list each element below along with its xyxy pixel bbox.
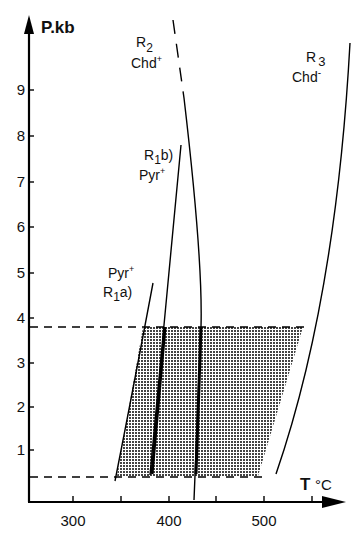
- y-tick-label: 4: [17, 309, 25, 326]
- phase-diagram: 1 2 3 4 5 6 7 8 9 300 400 500 P.kb T °C …: [0, 0, 359, 539]
- label-r2: R2 Chd+: [131, 34, 162, 71]
- svg-text:Chd+: Chd+: [131, 54, 162, 71]
- svg-text:R3: R3: [306, 49, 325, 69]
- svg-text:R1a): R1a): [103, 284, 132, 304]
- y-axis-title: P.kb: [41, 18, 75, 37]
- label-r3: R3 Chd-: [292, 49, 325, 85]
- y-tick-label: 2: [17, 398, 25, 415]
- x-axis-title: T: [300, 475, 311, 494]
- y-axis-arrow-icon: [24, 15, 34, 34]
- svg-text:R2: R2: [136, 34, 153, 55]
- curve-r2-dashed: [173, 20, 184, 98]
- y-tick-label: 6: [17, 218, 25, 235]
- x-tick-label: 400: [156, 512, 181, 529]
- svg-text:Pyr+: Pyr+: [139, 166, 165, 183]
- y-tick-label: 7: [17, 173, 25, 190]
- x-tick-label: 500: [251, 512, 276, 529]
- y-tick-label: 8: [17, 127, 25, 144]
- shaded-stability-field: [117, 327, 303, 476]
- y-tick-label: 5: [17, 264, 25, 281]
- x-axis-unit: °C: [315, 476, 332, 493]
- y-tick-label: 9: [17, 81, 25, 98]
- label-r1b: R1b) Pyr+: [139, 147, 173, 183]
- x-tick-label: 300: [60, 512, 85, 529]
- x-axis-arrow-icon: [322, 496, 346, 508]
- y-tick-label: 1: [17, 441, 25, 458]
- curve-r3: [276, 43, 350, 474]
- svg-text:R1b): R1b): [144, 147, 173, 167]
- svg-text:Chd-: Chd-: [292, 67, 321, 85]
- svg-text:Pyr+: Pyr+: [108, 264, 134, 281]
- y-tick-label: 3: [17, 354, 25, 371]
- label-r1a: Pyr+ R1a): [103, 264, 134, 304]
